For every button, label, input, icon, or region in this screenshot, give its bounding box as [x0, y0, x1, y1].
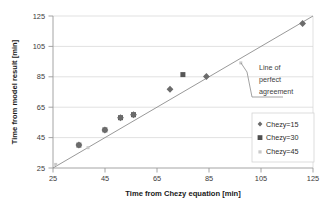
x-tick-label: 65	[153, 174, 161, 183]
y-tick-label: 65	[37, 103, 45, 112]
x-axis-ticks	[53, 168, 313, 173]
data-point	[87, 146, 90, 149]
x-tick-label: 105	[255, 174, 267, 183]
y-tick-label: 25	[37, 164, 45, 173]
y-tick-label: 85	[37, 72, 45, 81]
legend-marker-dot-icon	[258, 150, 261, 153]
legend-item-label[interactable]: Chezy=15	[266, 120, 299, 129]
legend-item-label[interactable]: Chezy=45	[266, 147, 299, 156]
scatter-chart: 125 105 85 65 45 25 25 45 65 85 105 125 …	[0, 0, 336, 212]
chart-canvas: 125 105 85 65 45 25 25 45 65 85 105 125 …	[0, 0, 336, 212]
x-axis-tick-labels: 25 45 65 85 105 125	[49, 174, 319, 183]
y-tick-label: 105	[33, 42, 45, 51]
annotation-text-line: agreement	[259, 87, 293, 96]
y-tick-label: 45	[37, 133, 45, 142]
data-point	[54, 163, 57, 166]
x-tick-label: 25	[49, 174, 57, 183]
chart-legend[interactable]: Chezy=15 Chezy=30 Chezy=45	[252, 113, 314, 162]
annotation-text-line: perfect	[259, 75, 281, 84]
data-point	[180, 72, 185, 77]
y-axis-tick-labels: 125 105 85 65 45 25	[33, 12, 45, 173]
x-tick-label: 45	[101, 174, 109, 183]
x-tick-label: 85	[205, 174, 213, 183]
x-tick-label: 125	[307, 174, 319, 183]
x-axis-title: Time from Chezy equation [min]	[125, 189, 241, 198]
y-tick-label: 125	[33, 12, 45, 21]
annotation-text-line: Line of	[259, 63, 281, 72]
y-axis-ticks	[49, 16, 54, 168]
legend-marker-square-icon	[258, 135, 263, 140]
legend-item-label[interactable]: Chezy=30	[266, 133, 299, 142]
y-axis-title: Time from model result [min]	[10, 39, 19, 144]
